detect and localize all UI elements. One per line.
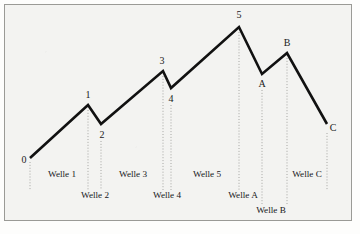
pivot-label-b: B bbox=[284, 38, 291, 48]
pivot-label-0: 0 bbox=[22, 155, 27, 165]
pivot-label-3: 3 bbox=[160, 56, 165, 66]
wave-polyline bbox=[30, 27, 327, 158]
elliott-wave-diagram: 012345ABC Welle 1Welle 2Welle 3Welle 4We… bbox=[0, 0, 360, 234]
pivot-label-1: 1 bbox=[86, 90, 91, 100]
pivot-label-2: 2 bbox=[100, 130, 105, 140]
wave-label-welle-4: Welle 4 bbox=[153, 191, 181, 200]
wave-path-group bbox=[30, 27, 327, 158]
wave-label-welle-c: Welle C bbox=[292, 170, 322, 179]
wave-label-welle-a: Welle A bbox=[228, 191, 258, 200]
wave-label-welle-5: Welle 5 bbox=[193, 170, 221, 179]
wave-label-welle-1: Welle 1 bbox=[48, 170, 76, 179]
pivot-label-5: 5 bbox=[237, 10, 242, 20]
wave-label-welle-b: Welle B bbox=[256, 206, 286, 215]
wave-label-welle-2: Welle 2 bbox=[81, 191, 109, 200]
pivot-label-4: 4 bbox=[169, 94, 174, 104]
pivot-label-c: C bbox=[330, 123, 337, 133]
wave-label-welle-3: Welle 3 bbox=[119, 170, 147, 179]
pivot-label-a: A bbox=[258, 79, 265, 89]
